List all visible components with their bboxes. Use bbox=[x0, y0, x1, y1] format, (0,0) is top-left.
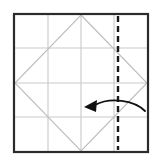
origami-figure-container: Origami folding step diagram Square shee… bbox=[0, 0, 161, 165]
origami-diagram bbox=[0, 0, 161, 165]
